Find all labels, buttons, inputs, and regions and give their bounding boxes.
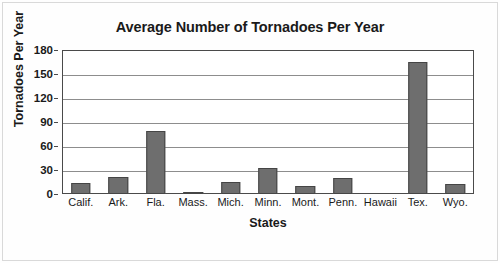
bar-slot <box>99 50 136 194</box>
bar-mont <box>296 186 315 194</box>
bar-slot <box>174 50 211 194</box>
x-axis-title: States <box>62 216 474 230</box>
x-axis-tick-hawaii: Hawaii <box>364 196 397 208</box>
bar-ark <box>108 177 127 194</box>
x-axis-tick-mass: Mass. <box>178 196 207 208</box>
x-axis-tick-penn: Penn. <box>329 196 358 208</box>
bar-calif <box>71 183 90 194</box>
x-axis-tick-fla: Fla. <box>146 196 164 208</box>
y-axis-tickmark <box>54 74 58 75</box>
bar-slot <box>399 50 436 194</box>
x-axis-tick-mont: Mont. <box>292 196 320 208</box>
bar-slot <box>324 50 361 194</box>
tornado-bar-chart-figure: Average Number of Tornadoes Per Year Tor… <box>0 0 500 263</box>
y-axis-tick-150: 150 <box>34 68 53 80</box>
y-axis-tickmark <box>54 146 58 147</box>
x-axis-tick-ark: Ark. <box>108 196 128 208</box>
y-axis-tick-30: 30 <box>40 164 53 176</box>
y-axis-tickmark <box>54 122 58 123</box>
x-axis-tick-mich: Mich. <box>217 196 243 208</box>
y-axis-tick-180: 180 <box>34 44 53 56</box>
y-axis-tick-60: 60 <box>40 140 53 152</box>
bar-slot <box>249 50 286 194</box>
bar-minn <box>258 168 277 194</box>
y-axis-tickmark <box>54 98 58 99</box>
x-axis-tick-minn: Minn. <box>255 196 282 208</box>
bar-penn <box>333 178 352 194</box>
y-axis-tickmark <box>54 170 58 171</box>
y-axis-tick-90: 90 <box>40 116 53 128</box>
bar-mass <box>183 192 202 194</box>
bar-tex <box>408 62 427 194</box>
bar-fla <box>146 131 165 194</box>
chart-title: Average Number of Tornadoes Per Year <box>0 19 500 35</box>
x-axis-tick-tex: Tex. <box>408 196 428 208</box>
bar-slot <box>362 50 399 194</box>
y-axis-tick-120: 120 <box>34 92 53 104</box>
x-axis-tick-wyo: Wyo. <box>443 196 468 208</box>
y-axis-tickmark <box>54 194 58 195</box>
y-axis-tick-0: 0 <box>47 188 53 200</box>
bar-slot <box>437 50 474 194</box>
x-axis-tick-calif: Calif. <box>68 196 93 208</box>
bar-mich <box>221 182 240 194</box>
y-axis-tick-labels: 0306090120150180 <box>0 50 58 194</box>
bar-slot <box>62 50 99 194</box>
bar-series <box>62 50 474 194</box>
y-axis-tickmark <box>54 50 58 51</box>
bar-slot <box>137 50 174 194</box>
bar-slot <box>287 50 324 194</box>
bar-wyo <box>446 184 465 194</box>
bar-slot <box>212 50 249 194</box>
x-axis-tick-labels: Calif.Ark.Fla.Mass.Mich.Minn.Mont.Penn.H… <box>62 196 474 212</box>
